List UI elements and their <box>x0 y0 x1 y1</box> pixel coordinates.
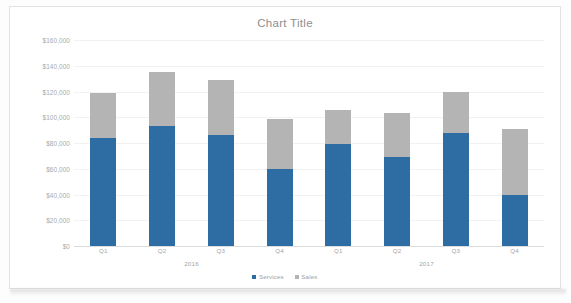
gridline <box>74 66 544 67</box>
bar-column[interactable] <box>267 119 293 246</box>
bar-segment-services[interactable] <box>208 135 234 246</box>
bar-segment-sales[interactable] <box>208 80 234 135</box>
gridline <box>74 143 544 144</box>
page-shadow <box>10 289 566 296</box>
gridline <box>74 117 544 118</box>
gridline <box>74 220 544 221</box>
chart-container[interactable]: Chart Title $160,000$140,000$120,000$100… <box>9 6 561 289</box>
y-axis-tick-label: $0 <box>24 243 70 250</box>
bar-column[interactable] <box>443 92 469 247</box>
legend-swatch-icon <box>252 275 256 279</box>
gridline <box>74 169 544 170</box>
y-axis-tick-label: $140,000 <box>24 62 70 69</box>
x-axis-tick-label: Q1 <box>318 247 358 254</box>
chart-legend: ServicesSales <box>10 273 560 280</box>
gridline <box>74 92 544 93</box>
bar-segment-services[interactable] <box>502 195 528 247</box>
chart-page: Chart Title $160,000$140,000$120,000$100… <box>0 0 571 303</box>
legend-label: Sales <box>301 273 317 280</box>
gridline <box>74 195 544 196</box>
x-axis-tick-label: Q4 <box>495 247 535 254</box>
x-axis-tick-label: Q2 <box>142 247 182 254</box>
bar-segment-services[interactable] <box>325 144 351 246</box>
legend-swatch-icon <box>295 275 299 279</box>
legend-item[interactable]: Services <box>252 273 283 280</box>
bar-segment-sales[interactable] <box>149 72 175 126</box>
bar-segment-sales[interactable] <box>384 113 410 157</box>
bar-segment-sales[interactable] <box>325 110 351 145</box>
x-axis-group-label: 2016 <box>74 260 309 267</box>
x-axis-groups: 20162017 <box>74 260 544 274</box>
bar-column[interactable] <box>384 113 410 246</box>
chart-title: Chart Title <box>10 17 560 29</box>
bar-segment-services[interactable] <box>384 157 410 246</box>
y-axis-tick-label: $40,000 <box>24 191 70 198</box>
y-axis-tick-label: $120,000 <box>24 88 70 95</box>
bar-segment-services[interactable] <box>149 126 175 246</box>
legend-label: Services <box>259 273 284 280</box>
bar-column[interactable] <box>208 80 234 246</box>
x-axis-tick-label: Q4 <box>260 247 300 254</box>
bar-segment-sales[interactable] <box>502 129 528 195</box>
bar-segment-services[interactable] <box>267 169 293 246</box>
bar-column[interactable] <box>502 129 528 246</box>
bar-column[interactable] <box>90 93 116 246</box>
gridline <box>74 40 544 41</box>
legend-item[interactable]: Sales <box>295 273 318 280</box>
bar-column[interactable] <box>325 110 351 246</box>
bar-column[interactable] <box>149 72 175 246</box>
x-axis-tick-label: Q2 <box>377 247 417 254</box>
bar-segment-sales[interactable] <box>267 119 293 169</box>
x-axis: Q1Q2Q3Q4Q1Q2Q3Q4 <box>74 247 544 261</box>
x-axis-tick-label: Q3 <box>436 247 476 254</box>
bar-segment-sales[interactable] <box>443 92 469 133</box>
y-axis-tick-label: $160,000 <box>24 37 70 44</box>
bar-segment-sales[interactable] <box>90 93 116 138</box>
y-axis-tick-label: $100,000 <box>24 114 70 121</box>
bar-segment-services[interactable] <box>443 133 469 246</box>
y-axis: $160,000$140,000$120,000$100,000$80,000$… <box>24 40 70 246</box>
x-axis-group-label: 2017 <box>309 260 544 267</box>
y-axis-tick-label: $60,000 <box>24 165 70 172</box>
bar-segment-services[interactable] <box>90 138 116 246</box>
plot-area <box>74 40 544 246</box>
y-axis-tick-label: $80,000 <box>24 140 70 147</box>
x-axis-tick-label: Q3 <box>201 247 241 254</box>
x-axis-tick-label: Q1 <box>83 247 123 254</box>
y-axis-tick-label: $20,000 <box>24 217 70 224</box>
